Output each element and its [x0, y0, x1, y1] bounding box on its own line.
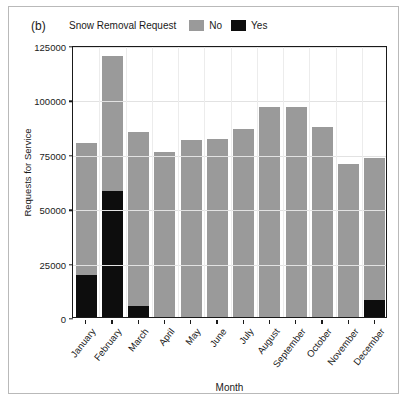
x-axis-labels: JanuaryFebruaryMarchAprilMayJuneJulyAugu… [72, 320, 387, 382]
y-gridline [73, 265, 386, 266]
y-tick-label: 25000 [40, 259, 73, 270]
bar-segment-yes [76, 275, 97, 317]
x-tick-label-may: May [183, 326, 203, 347]
y-tick-mark [69, 155, 73, 156]
x-tick-label-june: June [208, 326, 229, 349]
x-tick-mark [348, 320, 349, 324]
x-tick-label-march: March [125, 326, 150, 354]
x-tick-mark [321, 320, 322, 324]
bar-january[interactable] [76, 47, 97, 317]
y-tick-label: 125000 [34, 42, 73, 53]
y-tick-mark [69, 264, 73, 265]
plot-area: 0250005000075000100000125000 [72, 46, 387, 318]
bar-segment-no [76, 143, 97, 275]
bar-august[interactable] [259, 47, 280, 317]
x-tick-label-april: April [156, 326, 176, 348]
bar-september[interactable] [286, 47, 307, 317]
x-gridline [257, 47, 258, 317]
legend-swatch-yes-icon [231, 20, 246, 31]
bar-segment-no [128, 132, 149, 306]
x-tick-mark [374, 320, 375, 324]
bar-series-group [73, 47, 386, 317]
bar-segment-no [102, 56, 123, 191]
legend-swatch-no-icon [189, 20, 204, 31]
y-tick-mark [69, 46, 73, 47]
x-gridline [283, 47, 284, 317]
x-axis-title: Month [72, 382, 387, 393]
x-tick-mark [295, 320, 296, 324]
panel-label: (b) [31, 19, 46, 33]
x-gridline [231, 47, 232, 317]
x-tick-mark [138, 320, 139, 324]
bar-segment-no [181, 140, 202, 317]
bar-segment-yes [128, 306, 149, 317]
legend-item-no: No [189, 20, 222, 31]
bar-november[interactable] [338, 47, 359, 317]
x-tick-mark [216, 320, 217, 324]
bar-february[interactable] [102, 47, 123, 317]
bar-december[interactable] [364, 47, 385, 317]
bar-segment-yes [364, 300, 385, 317]
bar-segment-no [233, 129, 254, 317]
y-gridline [73, 101, 386, 102]
x-tick-label-july: July [236, 326, 255, 346]
y-tick-label: 75000 [40, 150, 73, 161]
y-tick-label: 50000 [40, 205, 73, 216]
x-tick-mark [269, 320, 270, 324]
legend-label-yes: Yes [251, 20, 267, 31]
bar-april[interactable] [154, 47, 175, 317]
x-gridline [99, 47, 100, 317]
y-axis-title: Requests for Service [22, 103, 33, 243]
x-gridline [336, 47, 337, 317]
x-gridline [152, 47, 153, 317]
y-tick-mark [69, 101, 73, 102]
legend-item-yes: Yes [231, 20, 267, 31]
bar-may[interactable] [181, 47, 202, 317]
x-gridline [309, 47, 310, 317]
x-tick-mark [164, 320, 165, 324]
x-tick-mark [85, 320, 86, 324]
bar-july[interactable] [233, 47, 254, 317]
x-gridline [126, 47, 127, 317]
y-tick-label: 100000 [34, 96, 73, 107]
x-tick-mark [190, 320, 191, 324]
figure-panel: (b) Snow Removal Request No Yes Requests… [8, 6, 399, 394]
legend-label-no: No [209, 20, 222, 31]
bar-march[interactable] [128, 47, 149, 317]
legend: Snow Removal Request No Yes [69, 20, 267, 31]
bar-segment-no [338, 164, 359, 317]
x-gridline [204, 47, 205, 317]
bar-segment-no [259, 107, 280, 317]
y-gridline [73, 156, 386, 157]
x-gridline [178, 47, 179, 317]
bar-october[interactable] [312, 47, 333, 317]
y-gridline [73, 210, 386, 211]
y-tick-mark [69, 209, 73, 210]
bar-june[interactable] [207, 47, 228, 317]
x-tick-mark [243, 320, 244, 324]
x-tick-mark [111, 320, 112, 324]
bar-segment-no [364, 158, 385, 299]
bar-segment-no [207, 139, 228, 317]
bar-segment-no [286, 107, 307, 317]
x-gridline [362, 47, 363, 317]
legend-title: Snow Removal Request [69, 20, 176, 31]
bar-segment-no [154, 152, 175, 317]
y-gridline [73, 47, 386, 48]
